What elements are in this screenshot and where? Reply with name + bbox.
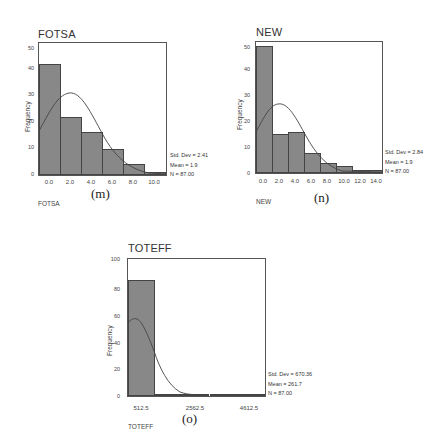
x-axis-label: FOTSA [38,200,60,207]
mean-text: Mean = 1.9 [170,161,208,171]
stats-box: Std. Dev = 670.36 Mean = 261.7 N = 87.00 [268,370,312,399]
mean-text: Mean = 1.9 [385,158,423,168]
y-tick: 20 [106,366,120,372]
y-tick: 0 [236,170,250,176]
x-tick: 14.0 [361,178,391,184]
y-tick: 100 [106,256,120,262]
figure-caption: (n) [314,190,329,206]
n-text: N = 87.00 [170,170,208,180]
y-tick: 40 [20,65,34,71]
y-tick: 0 [20,171,34,177]
y-tick: 60 [106,313,120,319]
y-tick: 50 [20,45,34,51]
y-tick: 20 [236,118,250,124]
n-text: N = 87.00 [385,167,423,177]
normal-curve [39,43,166,175]
y-axis-label: Frequency [236,99,243,130]
x-tick: 512.5 [126,405,156,411]
chart-title: FOTSA [38,28,76,40]
stats-box: Std. Dev = 2.84 Mean = 1.9 N = 87.00 [385,148,423,177]
y-tick: 50 [236,44,250,50]
plot-area [38,42,167,176]
plot-area [127,258,266,397]
y-axis-label: Frequency [24,101,31,132]
y-tick: 20 [20,118,34,124]
x-axis-label: TOTEFF [128,423,153,430]
n-text: N = 87.00 [268,389,312,399]
x-tick: 10.0 [139,179,169,185]
y-tick: 10 [236,144,250,150]
std-dev-text: Std. Dev = 2.41 [170,151,208,161]
y-tick: 30 [20,91,34,97]
y-tick: 40 [106,340,120,346]
std-dev-text: Std. Dev = 2.84 [385,148,423,158]
y-tick: 40 [236,66,250,72]
figure-caption: (m) [91,186,110,202]
y-tick: 10 [20,144,34,150]
figure-caption: (o) [182,411,197,427]
stats-box: Std. Dev = 2.41 Mean = 1.9 N = 87.00 [170,151,208,180]
x-axis-label: NEW [256,198,271,205]
normal-curve [256,42,382,173]
x-tick: 4612.5 [234,405,264,411]
chart-title: TOTEFF [128,242,172,254]
mean-text: Mean = 261.7 [268,380,312,390]
plot-area [255,41,383,174]
std-dev-text: Std. Dev = 670.36 [268,370,312,380]
chart-title: NEW [256,26,282,38]
y-tick: 80 [106,286,120,292]
y-tick: 0 [106,393,120,399]
y-tick: 30 [236,92,250,98]
normal-curve [128,259,265,396]
